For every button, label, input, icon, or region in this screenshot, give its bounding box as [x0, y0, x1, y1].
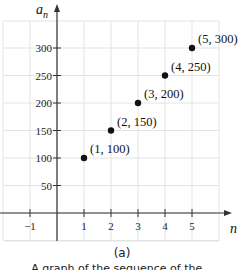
- data-point-label: (3, 200): [144, 87, 184, 101]
- data-point-label: (4, 250): [171, 60, 211, 74]
- sequence-scatter-chart: −11234550100150200250300 (1, 100)(2, 150…: [0, 0, 244, 250]
- x-tick-label: 4: [162, 220, 168, 232]
- x-tick-label: 3: [135, 220, 141, 232]
- data-point: [135, 100, 141, 106]
- tick-marks: −11234550100150200250300: [24, 42, 195, 232]
- y-tick-label: 300: [36, 42, 53, 54]
- data-point: [81, 155, 87, 161]
- data-point: [162, 72, 168, 78]
- data-points: (1, 100)(2, 150)(3, 200)(4, 250)(5, 300): [81, 32, 238, 161]
- x-tick-label: 2: [108, 220, 114, 232]
- data-point: [108, 127, 114, 133]
- y-tick-label: 100: [36, 152, 53, 164]
- x-tick-label: 1: [81, 220, 87, 232]
- figure-caption-letter: (a): [0, 246, 244, 260]
- data-point-label: (2, 150): [117, 115, 157, 129]
- x-axis-label: n: [230, 221, 237, 236]
- x-tick-label: −1: [24, 220, 36, 232]
- y-tick-label: 150: [36, 125, 53, 137]
- data-point-label: (1, 100): [90, 142, 130, 156]
- y-tick-label: 200: [36, 97, 53, 109]
- y-tick-label: 50: [41, 180, 53, 192]
- y-tick-label: 250: [36, 70, 53, 82]
- data-point-label: (5, 300): [198, 32, 238, 46]
- figure-caption-text: A graph of the sequence of the...: [0, 262, 244, 270]
- y-axis-label: an: [36, 2, 48, 20]
- data-point: [189, 45, 195, 51]
- x-tick-label: 5: [189, 220, 195, 232]
